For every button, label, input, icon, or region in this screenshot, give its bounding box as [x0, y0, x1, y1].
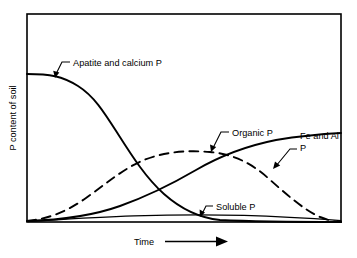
chart-figure: Apatite and calcium P Organic P Fe and A…: [0, 0, 357, 258]
annotation-label-soluble: Soluble P: [216, 202, 255, 212]
right-arrow-icon: [216, 237, 228, 247]
phosphorus-fractions-line-chart: Apatite and calcium P Organic P Fe and A…: [0, 0, 357, 258]
x-axis-label: Time: [134, 237, 154, 247]
y-axis-label: P content of soil: [8, 85, 18, 150]
leader-line-apatite: [56, 62, 70, 74]
leader-line-organic: [213, 132, 229, 148]
series-line-organic-p: [27, 151, 341, 222]
annotation-label-fe-al-line1: Fe and Al: [300, 131, 339, 141]
plot-frame: [27, 14, 341, 222]
annotation-label-fe-al-line2: P: [300, 143, 306, 153]
annotation-fe-and-al-p: Fe and Al P: [273, 131, 339, 169]
x-axis-label-group: Time: [134, 237, 228, 247]
leader-line-fe-al: [276, 149, 297, 166]
annotation-label-apatite: Apatite and calcium P: [73, 58, 162, 68]
annotation-apatite-and-calcium-p: Apatite and calcium P: [53, 58, 162, 78]
arrowhead-organic: [210, 145, 216, 152]
series-line-soluble-p: [28, 215, 341, 222]
annotation-label-organic: Organic P: [232, 128, 273, 138]
